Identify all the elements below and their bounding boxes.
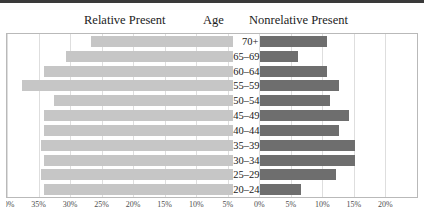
bar-row: 45–49	[7, 108, 417, 123]
bar-relative-present	[44, 66, 233, 77]
bar-relative-present	[66, 51, 233, 62]
age-group-label: 60–64	[233, 64, 258, 79]
plot-area: 70+65–6960–6455–5950–5445–4940–4435–3930…	[6, 33, 418, 198]
bar-nonrelative-present	[260, 125, 339, 136]
bar-row: 60–64	[7, 64, 417, 79]
bar-nonrelative-present	[260, 66, 326, 77]
x-tick-label: 10%	[315, 199, 330, 210]
bar-nonrelative-present	[260, 110, 348, 121]
header-nonrelative-present: Nonrelative Present	[249, 11, 348, 30]
chart-header-row: Relative Present Age Nonrelative Present	[0, 11, 424, 31]
bar-nonrelative-present	[260, 184, 301, 195]
age-group-label: 50–54	[233, 93, 258, 108]
age-group-label: 35–39	[233, 138, 258, 153]
population-pyramid-figure: Relative Present Age Nonrelative Present…	[0, 0, 424, 211]
bar-row: 25–29	[7, 167, 417, 182]
age-group-label: 20–24	[233, 182, 258, 197]
bar-relative-present	[54, 95, 234, 106]
x-tick-label: 40%	[6, 199, 14, 210]
bar-row: 55–59	[7, 78, 417, 93]
bar-nonrelative-present	[260, 140, 355, 151]
bar-row: 30–34	[7, 153, 417, 168]
age-group-label: 65–69	[233, 49, 258, 64]
x-tick-label: 5%	[286, 199, 297, 210]
x-tick-label: 30%	[63, 199, 78, 210]
bar-nonrelative-present	[260, 95, 329, 106]
bar-nonrelative-present	[260, 155, 355, 166]
bar-row: 70+	[7, 34, 417, 49]
bar-relative-present	[41, 140, 233, 151]
age-group-label: 30–34	[233, 153, 258, 168]
bar-relative-present	[22, 80, 233, 91]
bar-row: 65–69	[7, 49, 417, 64]
bar-nonrelative-present	[260, 36, 326, 47]
x-tick-label: 5%	[222, 199, 233, 210]
age-group-label: 55–59	[233, 78, 258, 93]
x-axis-tick-labels: 40%35%30%25%20%15%10%5%0%5%10%15%20%	[6, 199, 418, 211]
age-group-label: 40–44	[233, 123, 258, 138]
bar-rows: 70+65–6960–6455–5950–5445–4940–4435–3930…	[7, 34, 417, 197]
bar-nonrelative-present	[260, 51, 298, 62]
age-group-label: 25–29	[233, 167, 258, 182]
x-tick-label: 0%	[254, 199, 265, 210]
bar-row: 20–24	[7, 182, 417, 197]
top-divider-rule	[0, 0, 424, 3]
bar-relative-present	[41, 169, 233, 180]
bar-nonrelative-present	[260, 169, 336, 180]
x-tick-label: 20%	[126, 199, 141, 210]
age-group-label: 70+	[233, 34, 258, 49]
bar-row: 50–54	[7, 93, 417, 108]
age-group-label: 45–49	[233, 108, 258, 123]
x-tick-label: 10%	[189, 199, 204, 210]
bar-nonrelative-present	[260, 80, 339, 91]
bar-relative-present	[44, 184, 233, 195]
x-tick-label: 25%	[94, 199, 109, 210]
x-tick-label: 20%	[378, 199, 393, 210]
x-tick-label: 15%	[347, 199, 362, 210]
bar-relative-present	[44, 110, 233, 121]
bar-row: 40–44	[7, 123, 417, 138]
header-relative-present: Relative Present	[84, 11, 166, 30]
bar-relative-present	[44, 125, 233, 136]
bar-row: 35–39	[7, 138, 417, 153]
x-tick-label: 35%	[31, 199, 46, 210]
bar-relative-present	[91, 36, 233, 47]
x-tick-label: 15%	[157, 199, 172, 210]
header-age: Age	[203, 11, 224, 30]
bar-relative-present	[44, 155, 233, 166]
